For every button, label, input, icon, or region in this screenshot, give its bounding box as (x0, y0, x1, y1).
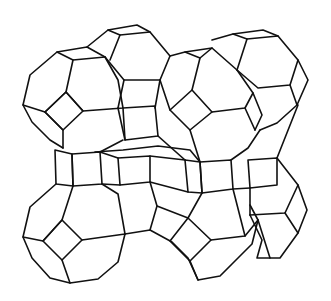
framework-line-drawing (0, 0, 331, 301)
cage-top-center (87, 25, 170, 108)
cage-bottom-left (23, 184, 125, 283)
cage-center (55, 106, 277, 193)
zeolite-framework-diagram (0, 0, 331, 301)
cage-top-left (23, 47, 123, 148)
cage-middle-upper (160, 48, 262, 130)
cage-bottom-center (125, 182, 258, 280)
cage-bottom-right (250, 105, 307, 258)
